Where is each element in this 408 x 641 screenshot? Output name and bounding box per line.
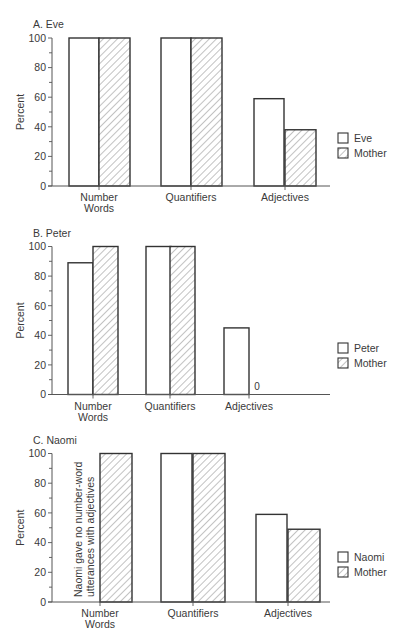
annotation-no-data: utterances with adjectives [84, 477, 96, 597]
bar-mother-quantifiers [191, 38, 222, 186]
annotation-no-data: Naomi gave no number-word [72, 461, 84, 597]
legend-label: Eve [354, 132, 372, 144]
bar-mother-quantifiers [170, 247, 195, 395]
bar-naomi-quantifiers [161, 454, 192, 603]
bar-eve-quantifiers [161, 38, 191, 186]
y-tick-label: 0 [40, 388, 46, 400]
bar-peter-adjectives [224, 328, 249, 395]
y-tick-label: 100 [28, 32, 46, 44]
annotation-zero-value: 0 [254, 381, 260, 392]
bar-mother-number-words [99, 38, 130, 186]
x-tick-label: Adjectives [261, 191, 309, 203]
bar-mother-adjectives [288, 529, 320, 602]
bar-eve-adjectives [254, 99, 284, 186]
legend-label: Naomi [354, 551, 384, 563]
figure: A. EvePercent020406080100NumberWordsQuan… [0, 0, 408, 641]
x-tick-label: Adjectives [264, 607, 312, 619]
legend-hatched-swatch-icon [338, 567, 348, 577]
x-tick-label: Adjectives [225, 400, 273, 412]
legend-hatched-swatch-icon [338, 358, 348, 368]
chart-title: A. Eve [33, 18, 64, 30]
bar-eve-number-words [69, 38, 99, 186]
chart-title: C. Naomi [33, 434, 77, 446]
bar-naomi-adjectives [256, 514, 287, 602]
y-axis-label: Percent [14, 94, 26, 130]
legend-open-swatch-icon [338, 133, 348, 143]
y-tick-label: 100 [28, 240, 46, 252]
y-tick-label: 0 [40, 180, 46, 192]
y-tick-label: 40 [34, 121, 46, 133]
y-tick-label: 20 [34, 150, 46, 162]
y-tick-label: 20 [34, 359, 46, 371]
bar-mother-number-words [93, 247, 118, 395]
bar-mother-adjectives [285, 130, 316, 186]
y-tick-label: 20 [34, 566, 46, 578]
x-tick-label: Quantifiers [166, 191, 217, 203]
legend-label: Mother [354, 147, 387, 159]
chart-title: B. Peter [33, 227, 71, 239]
y-tick-label: 40 [34, 536, 46, 548]
y-tick-label: 80 [34, 270, 46, 282]
bar-mother-number-words [100, 454, 132, 603]
bar-peter-number-words [68, 263, 93, 395]
y-tick-label: 60 [34, 507, 46, 519]
y-tick-label: 80 [34, 61, 46, 73]
bar-peter-quantifiers [146, 247, 171, 395]
x-tick-label: Quantifiers [168, 607, 219, 619]
legend-label: Peter [354, 342, 380, 354]
x-tick-label: Words [78, 411, 108, 423]
x-tick-label: Quantifiers [145, 400, 196, 412]
figure-canvas: A. EvePercent020406080100NumberWordsQuan… [0, 0, 408, 641]
legend-label: Mother [354, 357, 387, 369]
y-tick-label: 0 [40, 596, 46, 608]
bar-mother-quantifiers [193, 454, 225, 603]
y-tick-label: 60 [34, 91, 46, 103]
legend-open-swatch-icon [338, 343, 348, 353]
legend-label: Mother [354, 566, 387, 578]
y-tick-label: 60 [34, 300, 46, 312]
y-axis-label: Percent [14, 302, 26, 338]
y-tick-label: 40 [34, 329, 46, 341]
x-tick-label: Words [84, 202, 114, 214]
legend-hatched-swatch-icon [338, 148, 348, 158]
legend-open-swatch-icon [338, 552, 348, 562]
y-tick-label: 100 [28, 447, 46, 459]
y-tick-label: 80 [34, 477, 46, 489]
x-tick-label: Words [85, 618, 115, 630]
y-axis-label: Percent [14, 510, 26, 546]
